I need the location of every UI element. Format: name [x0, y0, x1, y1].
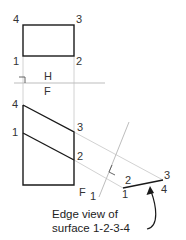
auxiliary-view-diagram: 4 3 1 2 H F 4 1 3 2 F 1 2 1 3 4 Edge vie… [0, 0, 186, 240]
top-label-2: 2 [76, 55, 82, 67]
fold-label-f-aux: F [79, 186, 86, 198]
top-label-4: 4 [13, 13, 19, 25]
fold-label-h: H [44, 70, 52, 82]
top-label-1: 1 [13, 55, 19, 67]
top-label-3: 3 [76, 13, 82, 25]
fold-label-f: F [44, 85, 51, 97]
caption-line-1: Edge view of [52, 208, 119, 220]
aux-label-2: 2 [125, 174, 131, 186]
arrowhead-icon [147, 186, 155, 195]
leader-arrow [147, 191, 156, 229]
front-label-3: 3 [77, 121, 83, 133]
front-label-1: 1 [12, 126, 18, 138]
right-angle-mark-hf [19, 77, 25, 83]
aux-label-3: 3 [164, 169, 170, 181]
fold-label-1-aux: 1 [90, 190, 96, 202]
right-angle-mark-f1 [109, 165, 115, 175]
aux-label-4: 4 [161, 183, 167, 195]
aux-label-1: 1 [122, 188, 128, 200]
front-label-4: 4 [12, 98, 18, 110]
front-view-shape [23, 105, 74, 185]
front-label-2: 2 [77, 150, 83, 162]
top-view-rectangle [23, 25, 74, 56]
caption-line-2: surface 1-2-3-4 [52, 222, 131, 234]
